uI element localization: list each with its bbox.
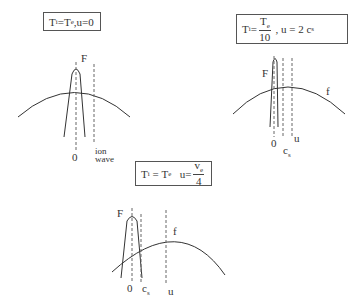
caption-ti: T [141, 168, 148, 180]
caption-eq: = [251, 23, 257, 35]
panel-2-label-cs: cs [283, 145, 291, 159]
fraction-numerator-sub: e [200, 166, 203, 174]
caption-ti: T [242, 23, 249, 35]
panel-1-label-zero: 0 [72, 152, 78, 163]
panel-2-label-zero: 0 [271, 138, 277, 149]
panel-1-label-wave: wave [95, 156, 114, 164]
panel-2-caption: Ti = Te 10 , u = 2 cs [236, 14, 348, 44]
panel-1-f-curve [18, 93, 130, 118]
panel-2-label-u: u [294, 133, 300, 144]
fraction-denominator: 4 [196, 175, 202, 187]
panel-1-label-F: F [81, 53, 87, 64]
caption-rest: , u = 2 c [273, 23, 312, 35]
caption-te-sub: e [168, 170, 171, 178]
panel-3-label-zero: 0 [127, 283, 133, 294]
caption-rest-sub: s [311, 25, 314, 33]
fraction-denominator: 10 [259, 31, 270, 43]
fraction-numerator-sub: e [267, 22, 270, 30]
caption-eq: = [150, 168, 162, 180]
caption-te: T [64, 16, 71, 28]
panel-3-f-curve [112, 242, 225, 275]
panel-3-label-cs: cs [142, 283, 150, 297]
diagram-lineart [0, 0, 356, 304]
panel-2-label-F: F [262, 68, 268, 79]
caption-u: u= [180, 168, 192, 180]
caption-te: T [161, 168, 168, 180]
cs-sub: s [147, 289, 150, 297]
panel-3-label-f: f [173, 226, 177, 237]
caption-rest: ,u=0 [74, 16, 94, 28]
panel-2-label-f: f [326, 86, 330, 97]
panel-1-F-curve [64, 69, 85, 137]
caption-fraction: ve 4 [193, 160, 204, 187]
panel-1-caption: Ti=Te ,u=0 [43, 12, 101, 31]
fraction-numerator: T [260, 15, 267, 27]
panel-3-label-u: u [168, 286, 174, 297]
caption-ti: T [49, 16, 56, 28]
cs-sub: s [288, 151, 291, 159]
caption-fraction: Te 10 [259, 16, 271, 43]
panel-3-caption: Ti = Te u= ve 4 [135, 161, 212, 186]
panel-3-label-F: F [117, 208, 123, 219]
